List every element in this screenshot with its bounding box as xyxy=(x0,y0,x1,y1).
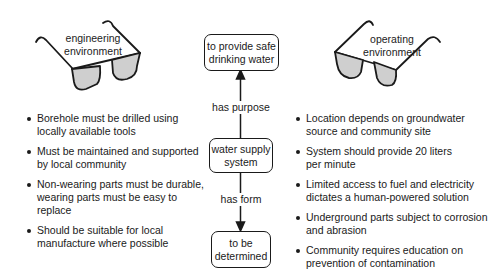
engineering-environment-label: engineering environment xyxy=(58,32,128,58)
list-item: Must be maintained and supportedby local… xyxy=(27,145,212,171)
list-item: Limited access to fuel and electricitydi… xyxy=(296,178,491,204)
list-item: Borehole must be drilled usinglocally av… xyxy=(27,112,212,138)
operating-environment-label: operating environment xyxy=(357,33,427,59)
engineering-requirements-list: Borehole must be drilled usinglocally av… xyxy=(27,112,212,257)
list-item: Underground parts subject to corrosionan… xyxy=(296,211,491,237)
water-supply-system-box: water supply system xyxy=(209,138,273,173)
list-item: System should provide 20 litersper minut… xyxy=(296,145,491,171)
list-item: Non-wearing parts must be durable,wearin… xyxy=(27,178,212,217)
has-form-label: has form xyxy=(215,193,267,206)
operating-requirements-list: Location depends on groundwatersource an… xyxy=(296,112,491,276)
list-item: Location depends on groundwatersource an… xyxy=(296,112,491,138)
form-box: to be determined xyxy=(211,231,271,268)
purpose-box: to provide safe drinking water xyxy=(204,34,279,71)
has-purpose-label: has purpose xyxy=(207,101,275,114)
list-item: Should be suitable for localmanufacture … xyxy=(27,224,212,250)
list-item: Community requires education onpreventio… xyxy=(296,244,491,270)
